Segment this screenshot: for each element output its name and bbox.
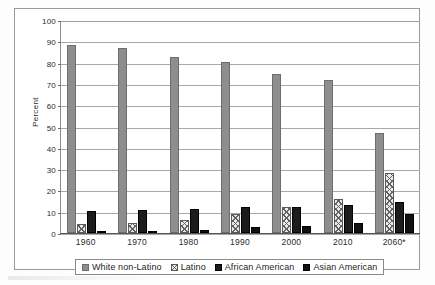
y-tick-label: 20	[47, 187, 56, 196]
x-axis-label: 1960	[60, 237, 111, 247]
bar-group	[164, 21, 215, 233]
bar	[138, 210, 147, 233]
legend-item[interactable]: Latino	[171, 262, 206, 272]
bar	[148, 231, 157, 233]
y-tick-label: 50	[47, 123, 56, 132]
bar	[405, 214, 414, 233]
bar	[282, 207, 291, 233]
y-tick-label: 10	[47, 208, 56, 217]
x-axis-labels: 1960197019801990200020102060*	[60, 237, 420, 247]
bar	[324, 80, 333, 233]
x-axis-label: 2010	[317, 237, 368, 247]
legend-swatch-icon	[82, 264, 89, 271]
bar	[200, 230, 209, 233]
bar	[241, 207, 250, 233]
y-tick-label: 60	[47, 102, 56, 111]
bar-group	[317, 21, 368, 233]
y-axis-title: Percent	[31, 97, 40, 127]
bar	[97, 231, 106, 233]
bar	[302, 226, 311, 233]
bar	[190, 209, 199, 233]
figure: Percent 0102030405060708090100 196019701…	[0, 0, 435, 285]
plot-area: 0102030405060708090100	[60, 21, 420, 234]
x-axis-label: 1970	[111, 237, 162, 247]
y-tick-label: 70	[47, 80, 56, 89]
legend-item[interactable]: African American	[215, 262, 295, 272]
bar	[67, 45, 76, 234]
page-artifact	[8, 276, 158, 280]
legend-swatch-icon	[171, 264, 178, 271]
bar	[118, 48, 127, 233]
bar	[354, 223, 363, 233]
y-tick-label: 100	[42, 17, 56, 26]
chart-legend: White non-LatinoLatinoAfrican AmericanAs…	[75, 259, 384, 275]
legend-label: White non-Latino	[92, 262, 162, 272]
legend-label: Asian American	[313, 262, 377, 272]
chart-frame: Percent 0102030405060708090100 196019701…	[14, 8, 420, 270]
legend-swatch-icon	[303, 264, 310, 271]
bar	[231, 214, 240, 233]
legend-item[interactable]: White non-Latino	[82, 262, 162, 272]
legend-swatch-icon	[215, 264, 222, 271]
y-tick-label: 40	[47, 144, 56, 153]
legend-label: African American	[225, 262, 295, 272]
bar	[375, 133, 384, 233]
bar	[77, 224, 86, 233]
x-axis-label: 1980	[163, 237, 214, 247]
bar	[344, 205, 353, 233]
bars-layer	[61, 21, 420, 233]
bar	[292, 207, 301, 233]
bar	[395, 202, 404, 233]
bar-group	[369, 21, 420, 233]
gridline	[61, 234, 420, 235]
bar	[334, 199, 343, 233]
bar	[221, 62, 230, 233]
bar-group	[215, 21, 266, 233]
bar-group	[266, 21, 317, 233]
bar	[251, 227, 260, 233]
legend-label: Latino	[181, 262, 206, 272]
x-axis-label: 2000	[266, 237, 317, 247]
x-axis-label: 2060*	[369, 237, 420, 247]
y-tick-label: 30	[47, 166, 56, 175]
bar	[180, 220, 189, 233]
bar	[272, 74, 281, 233]
y-tick-mark	[58, 234, 61, 235]
bar-group	[112, 21, 163, 233]
bar-group	[61, 21, 112, 233]
bar	[170, 57, 179, 233]
legend-item[interactable]: Asian American	[303, 262, 377, 272]
bar	[385, 173, 394, 233]
bar	[128, 223, 137, 233]
bar	[87, 211, 96, 233]
y-tick-label: 0	[51, 230, 56, 239]
x-axis-label: 1990	[214, 237, 265, 247]
y-tick-label: 90	[47, 38, 56, 47]
y-tick-label: 80	[47, 59, 56, 68]
